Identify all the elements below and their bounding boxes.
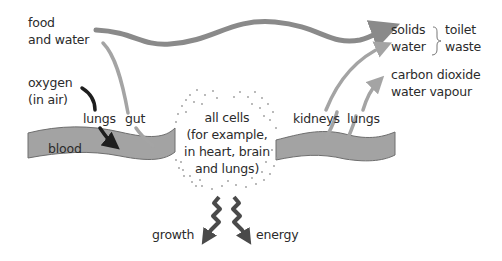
food-to-toilet-arrow	[96, 22, 386, 45]
water-label: water	[391, 38, 426, 55]
food-and-water-label: food and water	[28, 14, 89, 48]
solids-label: solids	[391, 21, 425, 38]
toilet-waste-brace	[432, 27, 441, 55]
toilet-waste-label: toilet waste	[445, 21, 481, 55]
oxygen-arrow	[82, 88, 95, 110]
lungs-exit-label: lungs	[347, 110, 380, 127]
energy-label: energy	[256, 226, 298, 243]
digestion-circulation-diagram: food and water oxygen (in air) lungs gut…	[0, 0, 502, 261]
gases-label: carbon dioxide water vapour	[391, 66, 481, 100]
lungs-to-gases-arrow	[363, 82, 378, 110]
gut-label: gut	[125, 110, 145, 127]
blood-label: blood	[48, 140, 82, 157]
kidneys-label: kidneys	[293, 110, 340, 127]
kidneys-up-arrow	[326, 46, 384, 110]
oxygen-label: oxygen (in air)	[28, 74, 72, 108]
energy-arrow	[233, 197, 247, 238]
growth-arrow	[206, 197, 220, 238]
blood-band-right	[276, 132, 395, 161]
growth-label: growth	[152, 226, 194, 243]
food-to-gut-arrow	[103, 43, 128, 113]
all-cells-label: all cells (for example, in heart, brain …	[180, 109, 274, 177]
lungs-entry-label: lungs	[83, 110, 116, 127]
